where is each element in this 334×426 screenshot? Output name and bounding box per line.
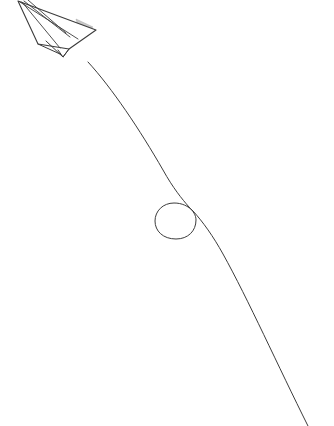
- drawing-canvas: A hand-drawn paper airplane in the upper…: [0, 0, 334, 426]
- canvas-background: [0, 0, 334, 426]
- paper-airplane-illustration: [0, 0, 334, 426]
